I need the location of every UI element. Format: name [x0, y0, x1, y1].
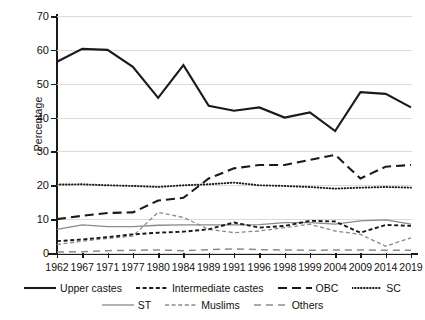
legend-swatch-icon — [102, 301, 134, 309]
x-tick-label: 1980 — [146, 261, 169, 273]
series-line-obc — [57, 155, 411, 219]
x-tick-mark — [335, 253, 336, 258]
legend-swatch-icon — [24, 284, 56, 292]
legend-item-obc[interactable]: OBC — [278, 282, 339, 294]
legend-item-st[interactable]: ST — [102, 299, 151, 311]
legend-swatch-icon — [278, 284, 312, 292]
x-tick-mark — [360, 253, 361, 258]
legend-row-primary: Upper castesIntermediate castesOBCSC — [0, 279, 425, 296]
legend-item-muslims[interactable]: Muslims — [165, 299, 240, 311]
y-tick-label: 30 — [9, 145, 49, 157]
legend-item-upper-castes[interactable]: Upper castes — [24, 282, 122, 294]
legend-item-label: OBC — [316, 282, 339, 294]
line-chart: Percentage 010203040506070 1962196719711… — [0, 0, 425, 320]
x-tick-mark — [82, 253, 83, 258]
x-tick-label: 2004 — [323, 261, 346, 273]
y-tick-label: 70 — [9, 10, 49, 22]
x-tick-mark — [411, 253, 412, 258]
series-line-others — [57, 249, 411, 252]
legend-swatch-icon — [136, 284, 168, 292]
legend-row-secondary: STMuslimsOthers — [0, 296, 425, 313]
y-tick-label: 60 — [9, 44, 49, 56]
x-tick-label: 2014 — [374, 261, 397, 273]
x-tick-label: 1977 — [121, 261, 144, 273]
series-line-muslims — [57, 212, 411, 246]
legend: Upper castesIntermediate castesOBCSC STM… — [0, 279, 425, 313]
x-tick-label: 1971 — [96, 261, 119, 273]
x-tick-label: 1967 — [71, 261, 94, 273]
x-tick-label: 2009 — [349, 261, 372, 273]
series-line-sc — [57, 183, 411, 189]
legend-swatch-icon — [254, 301, 288, 309]
y-axis-ticks: 010203040506070 — [0, 0, 49, 320]
x-tick-mark — [108, 253, 109, 258]
legend-item-sc[interactable]: SC — [352, 282, 401, 294]
legend-item-label: SC — [386, 282, 401, 294]
x-tick-label: 1991 — [222, 261, 245, 273]
x-tick-label: 1999 — [298, 261, 321, 273]
x-tick-label: 2019 — [399, 261, 422, 273]
x-tick-mark — [209, 253, 210, 258]
x-tick-mark — [158, 253, 159, 258]
y-tick-label: 0 — [9, 247, 49, 259]
x-tick-label: 1998 — [273, 261, 296, 273]
legend-item-label: Muslims — [201, 299, 240, 311]
legend-item-others[interactable]: Others — [254, 299, 324, 311]
legend-item-label: Intermediate castes — [172, 282, 264, 294]
legend-item-label: Others — [292, 299, 324, 311]
x-tick-mark — [310, 253, 311, 258]
x-tick-mark — [285, 253, 286, 258]
plot-area — [57, 16, 412, 253]
legend-swatch-icon — [165, 301, 197, 309]
x-tick-label: 1984 — [172, 261, 195, 273]
x-tick-mark — [386, 253, 387, 258]
y-tick-label: 10 — [9, 213, 49, 225]
x-tick-mark — [259, 253, 260, 258]
y-tick-label: 40 — [9, 112, 49, 124]
x-tick-mark — [183, 253, 184, 258]
legend-item-label: Upper castes — [60, 282, 122, 294]
y-tick-label: 20 — [9, 179, 49, 191]
legend-item-label: ST — [138, 299, 151, 311]
x-tick-label: 1996 — [248, 261, 271, 273]
x-tick-label: 1962 — [45, 261, 68, 273]
legend-swatch-icon — [352, 284, 382, 292]
y-tick-label: 50 — [9, 78, 49, 90]
legend-item-intermediate-castes[interactable]: Intermediate castes — [136, 282, 264, 294]
series-line-upper-castes — [57, 49, 411, 131]
series-paths — [57, 16, 412, 253]
x-tick-label: 1989 — [197, 261, 220, 273]
x-tick-mark — [57, 253, 58, 258]
series-line-st — [57, 220, 411, 229]
x-tick-mark — [133, 253, 134, 258]
x-tick-mark — [234, 253, 235, 258]
